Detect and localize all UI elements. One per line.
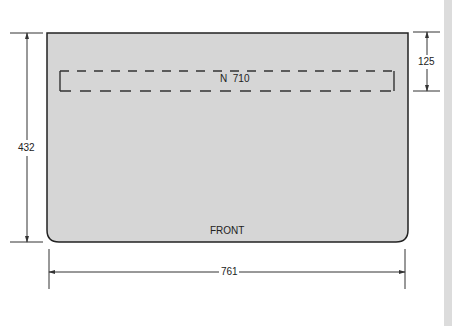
panel-outline <box>47 33 408 242</box>
height-dimension <box>10 33 43 242</box>
cutout-label: N 710 <box>218 73 251 84</box>
front-label: FRONT <box>210 225 244 236</box>
page-edge-strip <box>444 0 452 326</box>
panel-drawing <box>0 0 456 326</box>
width-dimension-label: 761 <box>220 266 239 277</box>
diagram-canvas: N 710 FRONT 432 125 761 <box>0 0 456 326</box>
height-dimension-label: 432 <box>17 142 36 153</box>
offset-dimension-label: 125 <box>417 56 436 67</box>
